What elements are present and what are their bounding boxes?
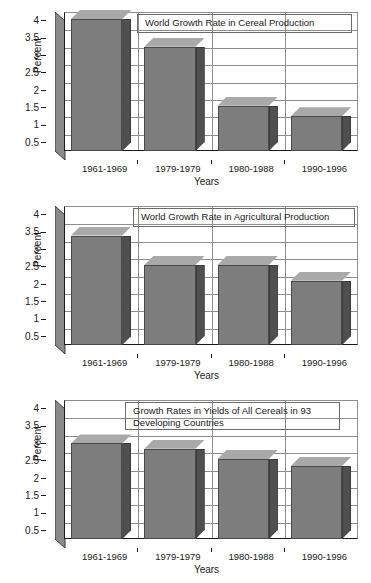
bar-top-face bbox=[291, 457, 351, 466]
y-tick-label: 1 bbox=[33, 314, 46, 324]
x-tick-label: 1990-1996 bbox=[302, 163, 347, 175]
bar-side-face bbox=[342, 281, 351, 345]
x-axis-label: Years bbox=[55, 176, 358, 187]
x-tick-mark bbox=[211, 160, 212, 164]
y-axis-ticks: 0.511.522.533.54 bbox=[20, 400, 46, 548]
y-tick-label: 2 bbox=[33, 474, 46, 484]
y-axis-ticks: 0.511.522.533.54 bbox=[20, 206, 46, 354]
x-tick-mark bbox=[137, 354, 138, 358]
bar-front-face bbox=[144, 265, 195, 345]
bar-front-face bbox=[218, 106, 269, 151]
bar-side-face bbox=[269, 106, 278, 151]
y-tick-label: 2.5 bbox=[25, 68, 46, 78]
bar-series bbox=[55, 12, 358, 160]
bar-top-face bbox=[218, 97, 278, 106]
bar-top-face bbox=[218, 450, 278, 459]
y-tick-label: 1.5 bbox=[25, 297, 46, 307]
y-tick-label: 1 bbox=[33, 120, 46, 130]
chart-cereal-yields: Percent 0.511.522.533.54 Growth Rates in… bbox=[0, 388, 371, 582]
bar-side-face bbox=[122, 19, 131, 151]
y-tick-label: 3 bbox=[33, 439, 46, 449]
bar-front-face bbox=[144, 449, 195, 539]
bar bbox=[291, 466, 342, 539]
bar bbox=[71, 236, 122, 345]
bar-front-face bbox=[71, 19, 122, 151]
x-tick-label: 1961-1969 bbox=[82, 551, 127, 563]
plot-area: World Growth Rate in Cereal Production bbox=[55, 12, 358, 160]
y-tick-label: 2.5 bbox=[25, 262, 46, 272]
bar-top-face bbox=[71, 434, 131, 443]
bar-top-face bbox=[291, 272, 351, 281]
bar-front-face bbox=[71, 443, 122, 539]
plot-area: World Growth Rate in Agricultural Produc… bbox=[55, 206, 358, 354]
bar-side-face bbox=[122, 443, 131, 539]
x-tick-mark bbox=[211, 548, 212, 552]
y-tick-label: 4 bbox=[33, 404, 46, 414]
bar-series bbox=[55, 206, 358, 354]
x-axis-label: Years bbox=[55, 564, 358, 575]
x-tick-label: 1980-1988 bbox=[228, 163, 273, 175]
bar-top-face bbox=[144, 440, 204, 449]
x-tick-mark bbox=[284, 548, 285, 552]
bar bbox=[71, 19, 122, 151]
bar bbox=[218, 106, 269, 151]
chart-cereal-production: Percent 0.511.522.533.54 World Growth Ra… bbox=[0, 0, 371, 194]
y-tick-label: 3 bbox=[33, 245, 46, 255]
plot-area: Growth Rates in Yields of All Cereals in… bbox=[55, 400, 358, 548]
y-tick-label: 0.5 bbox=[25, 138, 46, 148]
x-tick-label: 1961-1969 bbox=[82, 163, 127, 175]
x-tick-mark bbox=[137, 548, 138, 552]
bar-front-face bbox=[144, 47, 195, 151]
bar-side-face bbox=[196, 449, 205, 539]
bar-top-face bbox=[71, 227, 131, 236]
bar bbox=[218, 265, 269, 345]
bar-side-face bbox=[269, 459, 278, 539]
bar-top-face bbox=[144, 256, 204, 265]
x-tick-label: 1979-1979 bbox=[155, 163, 200, 175]
x-axis-ticks: 1961-19691979-19791980-19881990-1996 bbox=[55, 163, 367, 177]
x-tick-label: 1980-1988 bbox=[228, 551, 273, 563]
y-tick-label: 1.5 bbox=[25, 491, 46, 501]
y-tick-label: 2.5 bbox=[25, 456, 46, 466]
bar-front-face bbox=[218, 459, 269, 539]
bar bbox=[144, 449, 195, 539]
y-tick-label: 2 bbox=[33, 86, 46, 96]
y-tick-label: 1.5 bbox=[25, 103, 46, 113]
bar-side-face bbox=[122, 236, 131, 345]
bar-top-face bbox=[144, 38, 204, 47]
x-tick-mark bbox=[284, 160, 285, 164]
bar-side-face bbox=[196, 265, 205, 345]
x-tick-mark bbox=[284, 354, 285, 358]
bar-front-face bbox=[291, 116, 342, 151]
x-tick-label: 1979-1979 bbox=[155, 357, 200, 369]
x-tick-mark bbox=[211, 354, 212, 358]
bar-top-face bbox=[71, 10, 131, 19]
x-tick-label: 1990-1996 bbox=[302, 357, 347, 369]
y-axis-ticks: 0.511.522.533.54 bbox=[20, 12, 46, 160]
x-tick-label: 1979-1979 bbox=[155, 551, 200, 563]
x-tick-label: 1980-1988 bbox=[228, 357, 273, 369]
bar bbox=[71, 443, 122, 539]
y-tick-label: 3 bbox=[33, 51, 46, 61]
bar-front-face bbox=[291, 466, 342, 539]
y-tick-label: 2 bbox=[33, 280, 46, 290]
bar-side-face bbox=[196, 47, 205, 151]
x-axis-ticks: 1961-19691979-19791980-19881990-1996 bbox=[55, 357, 367, 371]
bar-top-face bbox=[291, 107, 351, 116]
bar-front-face bbox=[291, 281, 342, 345]
bar bbox=[291, 281, 342, 345]
x-tick-label: 1961-1969 bbox=[82, 357, 127, 369]
x-axis-ticks: 1961-19691979-19791980-19881990-1996 bbox=[55, 551, 367, 565]
y-tick-label: 3.5 bbox=[25, 33, 46, 43]
bar bbox=[291, 116, 342, 151]
bar-side-face bbox=[269, 265, 278, 345]
y-tick-label: 1 bbox=[33, 508, 46, 518]
x-axis-label: Years bbox=[55, 370, 358, 381]
bar bbox=[218, 459, 269, 539]
bar bbox=[144, 47, 195, 151]
bar-side-face bbox=[342, 116, 351, 151]
figure-page: Percent 0.511.522.533.54 World Growth Ra… bbox=[0, 0, 371, 583]
y-tick-label: 3.5 bbox=[25, 227, 46, 237]
bar-top-face bbox=[218, 256, 278, 265]
chart-title: World Growth Rate in Agricultural Produc… bbox=[133, 208, 355, 227]
